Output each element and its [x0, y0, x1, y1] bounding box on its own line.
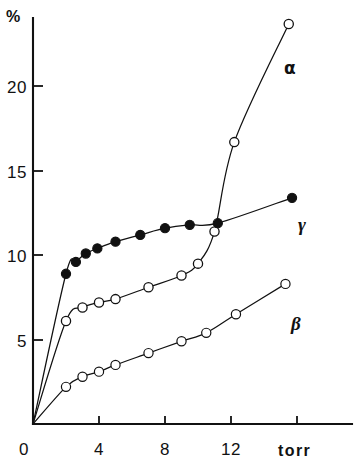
- marker-filled-circle: [71, 257, 80, 266]
- marker-filled-circle: [111, 237, 120, 246]
- marker-filled-circle: [81, 249, 90, 258]
- x-axis-unit-label: torr: [278, 442, 311, 459]
- marker-open-circle: [94, 298, 103, 307]
- data-point: [193, 259, 202, 268]
- marker-filled-circle: [185, 220, 194, 229]
- y-tick-label-15: 15: [7, 163, 27, 182]
- x-tick-label-8: 8: [160, 440, 170, 459]
- marker-open-circle: [111, 294, 120, 303]
- y-tick-label-20: 20: [7, 78, 27, 97]
- y-tick-marks: [33, 86, 43, 340]
- data-point: [61, 382, 70, 391]
- data-point: [71, 257, 80, 266]
- marker-filled-circle: [61, 269, 70, 278]
- data-point: [287, 193, 296, 202]
- marker-open-circle: [210, 227, 219, 236]
- data-point: [230, 138, 239, 147]
- data-point: [177, 271, 186, 280]
- marker-open-circle: [61, 316, 70, 325]
- series-label-beta: β: [290, 313, 301, 334]
- marker-half-outline: [111, 360, 120, 369]
- data-point: [93, 244, 102, 253]
- curve-beta: [33, 284, 285, 424]
- data-point: [81, 249, 90, 258]
- marker-half-outline: [202, 328, 211, 337]
- data-point: [111, 360, 120, 369]
- data-point: [136, 230, 145, 239]
- data-point: [160, 224, 169, 233]
- markers-beta: [61, 279, 290, 391]
- data-point: [94, 367, 103, 376]
- marker-half-outline: [94, 367, 103, 376]
- data-point: [185, 220, 194, 229]
- data-point: [78, 372, 87, 381]
- marker-filled-circle: [287, 193, 296, 202]
- marker-half-outline: [281, 279, 290, 288]
- x-tick-marks: [99, 416, 297, 424]
- data-point: [61, 316, 70, 325]
- series-label-gamma: γ: [298, 214, 306, 235]
- data-point: [78, 303, 87, 312]
- data-point: [94, 298, 103, 307]
- data-point: [61, 269, 70, 278]
- marker-filled-circle: [160, 224, 169, 233]
- data-point: [111, 237, 120, 246]
- marker-open-circle: [193, 259, 202, 268]
- marker-filled-circle: [93, 244, 102, 253]
- marker-open-circle: [284, 19, 293, 28]
- data-point: [213, 219, 222, 228]
- markers-alpha: [61, 19, 293, 325]
- marker-open-circle: [230, 138, 239, 147]
- marker-half-outline: [231, 310, 240, 319]
- markers-gamma: [61, 193, 296, 278]
- data-point: [144, 283, 153, 292]
- series-label-alpha: α: [284, 58, 296, 78]
- marker-half-outline: [78, 372, 87, 381]
- chart-svg: 20 15 10 5 % 0 4 8 12 torr α γ β: [0, 0, 356, 475]
- y-tick-label-10: 10: [7, 247, 27, 266]
- x-tick-label-4: 4: [94, 440, 104, 459]
- marker-open-circle: [78, 303, 87, 312]
- chart-figure: 20 15 10 5 % 0 4 8 12 torr α γ β: [0, 0, 356, 475]
- marker-open-circle: [144, 283, 153, 292]
- data-point: [144, 349, 153, 358]
- marker-half-outline: [144, 349, 153, 358]
- x-origin-label: 0: [19, 440, 29, 459]
- data-point: [111, 294, 120, 303]
- data-point: [281, 279, 290, 288]
- y-axis-unit-label: %: [6, 8, 20, 25]
- marker-filled-circle: [213, 219, 222, 228]
- marker-half-outline: [61, 382, 70, 391]
- data-point: [177, 337, 186, 346]
- marker-open-circle: [177, 271, 186, 280]
- data-point: [210, 227, 219, 236]
- marker-filled-circle: [136, 230, 145, 239]
- data-point: [284, 19, 293, 28]
- data-point: [202, 328, 211, 337]
- x-tick-label-12: 12: [221, 440, 241, 459]
- marker-half-outline: [177, 337, 186, 346]
- y-tick-label-5: 5: [17, 332, 27, 351]
- data-point: [231, 310, 240, 319]
- curve-alpha: [33, 24, 289, 424]
